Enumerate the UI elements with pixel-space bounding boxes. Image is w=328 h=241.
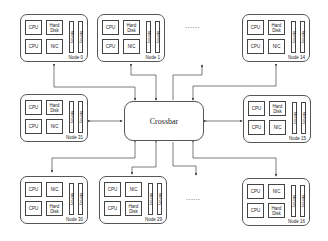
cpu-box: CPU — [247, 203, 264, 218]
node-label: Node 30 — [66, 217, 83, 222]
hard-disk-box: HardDisk — [46, 100, 63, 115]
node-label: Node 14 — [288, 55, 305, 60]
nic-box: NIC — [46, 182, 63, 197]
cpu-box: CPU — [247, 39, 264, 54]
memory-label: Memory — [149, 193, 153, 206]
cpu-box: CPU — [25, 182, 42, 197]
hard-disk-box: HardDisk — [125, 201, 142, 216]
ellipsis-top: ...... — [185, 22, 200, 29]
hard-disk-box: HardDisk — [46, 20, 63, 35]
nic-box: NIC — [268, 39, 285, 54]
node-label: Node 15 — [289, 136, 306, 141]
node-31: CPU HardDisk CPU NIC Memory Memory Node … — [20, 94, 88, 142]
nic-box: NIC — [46, 39, 63, 54]
memory-label: Memory — [293, 112, 297, 125]
cpu-box: CPU — [25, 201, 42, 216]
memory-bar: Memory — [78, 101, 83, 133]
hard-disk-box: HardDisk — [123, 20, 140, 35]
memory-bar: Memory — [148, 183, 153, 215]
nic-box: NIC — [46, 119, 63, 134]
ellipsis-bottom: ...... — [186, 194, 201, 201]
node-16: CPU NIC CPU HardDisk Memory Memory Node … — [242, 178, 310, 226]
node-0: CPU HardDisk CPU NIC Memory Memory Node … — [20, 14, 88, 62]
hard-disk-label: Disk — [50, 108, 59, 113]
hard-disk-label: Disk — [129, 209, 138, 214]
memory-bar: Memory — [155, 21, 160, 53]
memory-bar: Memory — [292, 102, 297, 134]
cpu-box: CPU — [247, 184, 264, 199]
cpu-box: CPU — [25, 20, 42, 35]
cpu-box: CPU — [102, 20, 119, 35]
memory-label: Memory — [302, 112, 306, 125]
memory-label: Memory — [70, 111, 74, 124]
memory-label: Memory — [70, 193, 74, 206]
cpu-box: CPU — [25, 119, 42, 134]
cpu-box: CPU — [25, 39, 42, 54]
memory-bar: Memory — [291, 185, 296, 217]
node-label: Node 0 — [68, 55, 83, 60]
node-29: CPU NIC CPU HardDisk Memory Memory Node … — [99, 176, 167, 224]
nic-box: NIC — [125, 182, 142, 197]
node-15: CPU HardDisk CPU NIC Memory Memory Node … — [243, 95, 311, 143]
memory-bar: Memory — [78, 21, 83, 53]
memory-label: Memory — [79, 31, 83, 44]
memory-bar: Memory — [157, 183, 162, 215]
cpu-box: CPU — [248, 101, 265, 116]
memory-label: Memory — [79, 193, 83, 206]
node-label: Node 1 — [145, 55, 160, 60]
memory-bar: Memory — [291, 21, 296, 53]
crossbar-label: Crossbar — [150, 117, 178, 126]
memory-label: Memory — [147, 31, 151, 44]
hard-disk-label: Disk — [272, 211, 281, 216]
crossbar: Crossbar — [124, 101, 204, 141]
cpu-box: CPU — [248, 120, 265, 135]
hard-disk-label: Disk — [50, 28, 59, 33]
node-30: CPU NIC CPU HardDisk Memory Memory Node … — [20, 176, 88, 224]
node-label: Node 16 — [288, 219, 305, 224]
cpu-box: CPU — [25, 100, 42, 115]
memory-bar: Memory — [69, 101, 74, 133]
cpu-box: CPU — [104, 201, 121, 216]
hard-disk-box: HardDisk — [269, 101, 286, 116]
cpu-box: CPU — [102, 39, 119, 54]
memory-label: Memory — [301, 195, 305, 208]
memory-bar: Memory — [300, 185, 305, 217]
memory-bar: Memory — [69, 183, 74, 215]
hard-disk-label: Disk — [127, 28, 136, 33]
memory-label: Memory — [301, 31, 305, 44]
nic-box: NIC — [268, 184, 285, 199]
memory-label: Memory — [292, 31, 296, 44]
memory-label: Memory — [156, 31, 160, 44]
hard-disk-label: Disk — [50, 209, 59, 214]
nic-box: NIC — [269, 120, 286, 135]
node-label: Node 29 — [145, 217, 162, 222]
hard-disk-box: HardDisk — [46, 201, 63, 216]
hard-disk-box: HardDisk — [268, 203, 285, 218]
memory-label: Memory — [79, 111, 83, 124]
nic-box: NIC — [123, 39, 140, 54]
hard-disk-label: Disk — [272, 28, 281, 33]
memory-bar: Memory — [300, 21, 305, 53]
node-1: CPU HardDisk CPU NIC Memory Memory Node … — [97, 14, 165, 62]
cpu-box: CPU — [247, 20, 264, 35]
memory-label: Memory — [70, 31, 74, 44]
cpu-box: CPU — [104, 182, 121, 197]
node-label: Node 31 — [66, 135, 83, 140]
memory-label: Memory — [158, 193, 162, 206]
memory-label: Memory — [292, 195, 296, 208]
memory-bar: Memory — [78, 183, 83, 215]
memory-bar: Memory — [69, 21, 74, 53]
hard-disk-box: HardDisk — [268, 20, 285, 35]
memory-bar: Memory — [146, 21, 151, 53]
node-14: CPU HardDisk CPU NIC Memory Memory Node … — [242, 14, 310, 62]
hard-disk-label: Disk — [273, 109, 282, 114]
memory-bar: Memory — [301, 102, 306, 134]
